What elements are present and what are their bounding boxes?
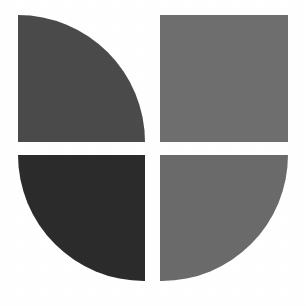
- logo-canvas: [0, 0, 306, 306]
- logo-quadrant-bottom-right: [160, 155, 288, 281]
- logo-quadrant-top-right: [160, 15, 288, 142]
- logo-quadrant-bottom-left: [18, 155, 145, 281]
- logo-quadrant-top-left: [18, 15, 145, 142]
- logo-mark: [0, 0, 306, 306]
